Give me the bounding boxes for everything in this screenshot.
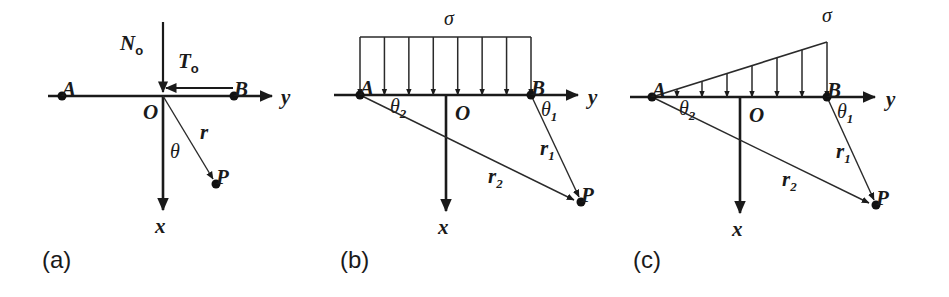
figure-container: A B P O y x r θ No To A B P O y x r1 r2 … xyxy=(0,0,949,297)
panel-b-labels: A B P O y x r1 r2 θ1 θ2 σ xyxy=(358,7,598,239)
figure-svg: A B P O y x r θ No To A B P O y x r1 r2 … xyxy=(0,0,949,297)
load-label-a-T0: To xyxy=(178,49,199,76)
axis-label-c-x: x xyxy=(731,217,743,241)
point-label-a-P: P xyxy=(215,165,229,189)
point-label-a-A: A xyxy=(60,77,76,101)
angle-label-a-theta: θ xyxy=(170,140,180,162)
radius-label-c-r2: r2 xyxy=(782,167,797,194)
angle-label-c-theta1: θ1 xyxy=(837,100,853,126)
origin-label-b: O xyxy=(455,101,470,125)
load-symbol-c-sigma: σ xyxy=(822,4,833,26)
panel-a-labels: A B P O y x r θ No To xyxy=(60,31,291,238)
axis-label-a-x: x xyxy=(154,214,166,238)
panel-c-labels: A B P O y x r1 r2 θ1 θ2 σ xyxy=(650,4,896,241)
load-label-a-N0: No xyxy=(119,31,143,58)
axis-label-b-y: y xyxy=(585,85,598,109)
panel-c-load-hypotenuse xyxy=(652,42,827,97)
axis-label-c-y: y xyxy=(883,87,896,111)
axis-label-b-x: x xyxy=(437,215,449,239)
panel-caption-c: (c) xyxy=(633,246,661,273)
panel-caption-b: (b) xyxy=(340,246,369,273)
point-label-b-B: B xyxy=(530,76,545,100)
panel-captions: (a) (b) (c) xyxy=(42,246,661,273)
angle-label-c-theta2: θ2 xyxy=(679,97,696,123)
origin-label-a: O xyxy=(143,100,158,124)
angle-label-b-theta2: θ2 xyxy=(390,95,407,121)
point-label-c-A: A xyxy=(650,78,666,102)
point-label-c-P: P xyxy=(875,186,889,210)
radius-label-a-r: r xyxy=(200,120,209,144)
point-label-b-A: A xyxy=(358,76,374,100)
load-symbol-b-sigma: σ xyxy=(444,7,455,29)
point-label-c-B: B xyxy=(826,78,841,102)
point-label-b-P: P xyxy=(580,183,594,207)
axis-label-a-y: y xyxy=(278,85,291,109)
point-label-a-B: B xyxy=(233,77,248,101)
origin-label-c: O xyxy=(749,103,764,127)
panel-caption-a: (a) xyxy=(42,246,71,273)
radius-label-b-r2: r2 xyxy=(488,164,503,191)
